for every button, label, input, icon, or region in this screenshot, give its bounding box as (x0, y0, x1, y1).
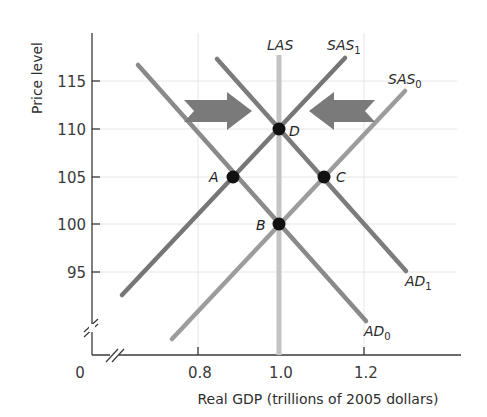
sas0-label: SAS0 (388, 71, 422, 90)
x-tick-label-0.8: 0.8 (188, 364, 212, 382)
y-tick-label-100: 100 (57, 216, 86, 234)
ad0-label: AD0 (363, 323, 391, 342)
y-tick-label-115: 115 (57, 73, 86, 91)
arrow-right-icon (184, 92, 252, 130)
y-tick-label-105: 105 (57, 169, 86, 187)
y-tick-label-95: 95 (67, 264, 86, 282)
origin-label: 0 (75, 364, 85, 382)
point-d-marker (273, 123, 286, 136)
sas1-label: SAS1 (327, 37, 361, 56)
point-d-label: D (289, 123, 300, 139)
x-tick-label-1.2: 1.2 (354, 364, 378, 382)
point-c-label: C (336, 169, 346, 185)
ad1-label: AD1 (404, 273, 432, 292)
point-b-marker (273, 218, 286, 231)
x-axis-title: Real GDP (trillions of 2005 dollars) (198, 391, 439, 407)
y-tick-label-110: 110 (57, 121, 86, 139)
axis-break-y (84, 319, 98, 337)
las-label: LAS (267, 37, 293, 53)
point-a-label: A (208, 169, 219, 185)
y-axis-title: Price level (29, 42, 45, 114)
point-c-marker (318, 171, 331, 184)
arrow-left-icon (309, 92, 375, 130)
x-tick-label-1.0: 1.0 (269, 364, 293, 382)
point-a-marker (227, 171, 240, 184)
point-b-label: B (256, 217, 266, 233)
chart-canvas: A B C D LAS SAS1 SAS0 AD1 AD0 115 110 10… (0, 0, 487, 417)
